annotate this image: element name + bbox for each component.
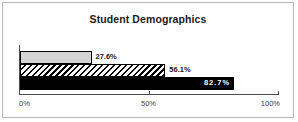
- bar-series-3: [20, 77, 234, 90]
- bar-label-3: 82.7%: [204, 78, 230, 87]
- chart-container: Student Demographics 27.6% 56.1% 82.7% 0…: [2, 2, 294, 118]
- bar-series-1: [20, 51, 92, 64]
- axis-tick-50: [149, 91, 150, 95]
- bar-row-3: 82.7%: [20, 77, 234, 90]
- bar-label-2: 56.1%: [169, 65, 190, 74]
- bar-series-2: [20, 64, 165, 77]
- bar-row-1: 27.6%: [20, 51, 92, 64]
- tick-label-50: 50%: [141, 99, 156, 108]
- axis-tick-100: [278, 91, 279, 95]
- bar-label-1: 27.6%: [96, 52, 117, 61]
- plot-area: 27.6% 56.1% 82.7% 0% 50% 100%: [3, 3, 295, 119]
- bar-row-2: 56.1%: [20, 64, 165, 77]
- axis-tick-0: [19, 91, 20, 95]
- tick-label-100: 100%: [261, 99, 280, 108]
- tick-label-0: 0%: [19, 99, 30, 108]
